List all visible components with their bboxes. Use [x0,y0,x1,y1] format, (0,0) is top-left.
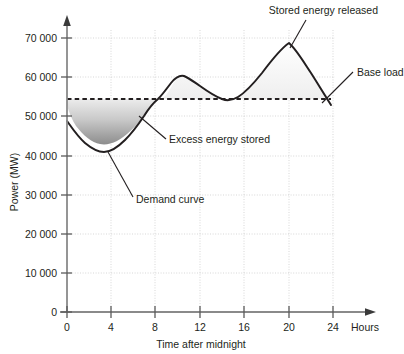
x-tick-label-4: 4 [108,321,114,333]
y-tick-label-40000: 40 000 [25,150,57,162]
annotation-excess-energy-stored: Excess energy stored [169,133,270,145]
x-tick-label-0: 0 [64,321,70,333]
x-tick-label-8: 8 [152,321,158,333]
chart-background [0,0,404,354]
y-tick-label-0: 0 [51,306,57,318]
x-axis-title: Time after midnight [156,338,246,350]
y-tick-label-60000: 60 000 [25,71,57,83]
y-axis-title: Power (MW) [8,153,20,211]
y-tick-label-10000: 10 000 [25,267,57,279]
x-axis-units-label: Hours [351,321,379,333]
annotation-demand-curve: Demand curve [136,193,204,205]
y-tick-label-50000: 50 000 [25,110,57,122]
y-tick-label-70000: 70 000 [25,32,57,44]
y-tick-label-20000: 20 000 [25,228,57,240]
annotation-stored-energy-released: Stored energy released [269,4,378,16]
power-demand-line-chart: 70 000 60 000 50 000 40 000 30 000 20 00… [0,0,404,354]
y-tick-label-30000: 30 000 [25,189,57,201]
x-tick-label-20: 20 [283,321,295,333]
chart-figure: 70 000 60 000 50 000 40 000 30 000 20 00… [0,0,404,354]
annotation-base-load: Base load [357,66,404,78]
x-tick-label-12: 12 [194,321,206,333]
x-tick-label-24: 24 [327,321,339,333]
x-tick-label-16: 16 [238,321,250,333]
